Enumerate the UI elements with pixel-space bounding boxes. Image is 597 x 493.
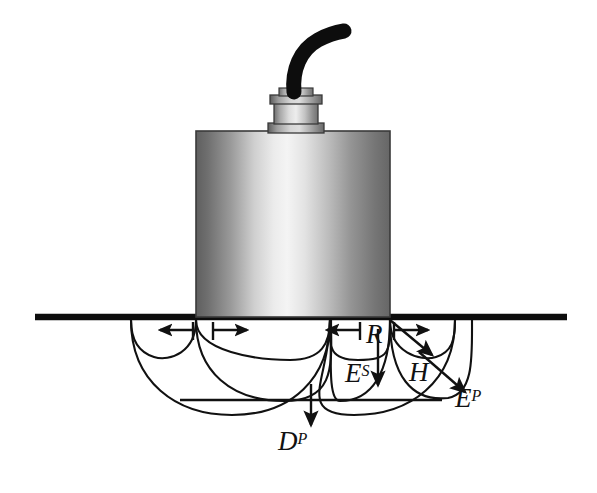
- cable: [294, 31, 344, 92]
- label-downward-compression-base: D: [278, 426, 298, 456]
- label-downward-compression: DP: [278, 428, 307, 455]
- label-horizontal-shear: H: [409, 359, 429, 386]
- label-rayleigh-base: R: [366, 319, 383, 349]
- label-downward-compression-sup: P: [298, 430, 308, 447]
- wave-propagation-diagram: [0, 0, 597, 493]
- label-shear-energy: ES: [345, 360, 370, 387]
- figure-canvas: R ES H EP DP: [0, 0, 597, 493]
- wavefronts-left-fan: [131, 320, 196, 358]
- h-arrow: [390, 320, 432, 355]
- label-compression-energy-base: E: [455, 383, 472, 413]
- left-inner-lobe: [196, 320, 330, 360]
- label-compression-energy-sup: P: [472, 387, 482, 404]
- label-horizontal-shear-base: H: [409, 357, 429, 387]
- label-compression-energy: EP: [455, 385, 481, 412]
- transducer-body: [196, 131, 390, 317]
- label-shear-energy-sup: S: [362, 362, 370, 379]
- right-fan-inner: [390, 320, 455, 358]
- left-fan-inner: [131, 320, 196, 358]
- label-shear-energy-base: E: [345, 358, 362, 388]
- label-rayleigh: R: [366, 321, 383, 348]
